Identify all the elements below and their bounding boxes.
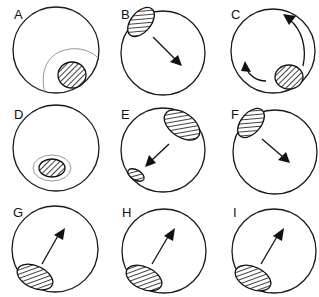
arrow (153, 37, 176, 60)
arrow (42, 234, 59, 264)
panel-label-d: D (14, 107, 23, 122)
panel-a: A (13, 7, 99, 93)
hatched-region (275, 65, 303, 89)
outer-circle (13, 105, 99, 191)
outer-circle (13, 7, 99, 93)
panel-b: B (121, 3, 205, 95)
panel-label-h: H (122, 205, 131, 220)
arrow (262, 139, 283, 157)
panel-h: H (122, 205, 206, 296)
panel-i: I (231, 205, 316, 296)
arrow-head-icon (54, 228, 65, 240)
arrow (152, 235, 169, 264)
arrow (261, 235, 278, 264)
hatched-region (122, 260, 166, 296)
panel-e: E (121, 104, 205, 192)
arrow-head-icon (164, 228, 175, 241)
panel-label-b: B (121, 7, 130, 22)
panel-label-a: A (14, 7, 23, 22)
panel-label-f: F (231, 107, 239, 122)
diagram-figure: A B C D E F (0, 0, 319, 297)
arrow-head-icon (145, 155, 156, 167)
hatched-region (58, 62, 86, 88)
hatched-region (231, 260, 275, 296)
hatched-region-large (159, 104, 206, 147)
hatched-region (13, 259, 57, 295)
panel-label-c: C (231, 7, 240, 22)
panel-f: F (231, 104, 317, 194)
arrow-head-icon (241, 61, 251, 72)
panel-c: C (231, 7, 315, 93)
panel-label-g: G (13, 205, 23, 220)
panel-label-i: I (233, 205, 237, 220)
arrow (152, 144, 169, 160)
panel-label-e: E (121, 107, 130, 122)
panel-g: G (12, 205, 98, 295)
panel-d: D (13, 105, 99, 191)
arrow-head-icon (273, 228, 284, 241)
hatched-region (39, 159, 65, 177)
curved-arrow (290, 20, 304, 66)
hatched-region-small (126, 166, 147, 184)
